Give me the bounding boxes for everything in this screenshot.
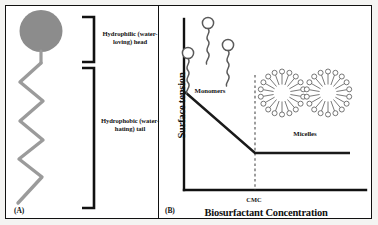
hydrophobic-tail-icon	[18, 63, 43, 203]
panel-a-tag: (A)	[14, 206, 24, 215]
surface-tension-curve	[185, 92, 350, 153]
micelles-caption: Micelles	[270, 130, 340, 137]
x-axis-title: Biosurfactant Concentration	[168, 207, 364, 218]
micelle-glyph-right	[304, 69, 351, 117]
micelle-glyph-left	[258, 69, 305, 117]
panel-b: Surface tension Biosurfactant Concentrat…	[160, 5, 372, 219]
panel-b-tag: (B)	[165, 206, 175, 215]
tail-bracket-icon	[82, 68, 94, 208]
figure-root: Hydrophilic (water-loving) head Hydropho…	[0, 0, 378, 225]
cmc-tick-label: CMC	[232, 196, 276, 203]
monomers-caption: Monomers	[178, 87, 242, 94]
hydrophilic-head-icon	[20, 10, 63, 52]
head-bracket-icon	[82, 17, 94, 62]
hydrophilic-head-label: Hydrophilic (water-loving) head	[97, 30, 163, 47]
panel-b-graphics	[160, 5, 372, 219]
monomer-glyph-group	[182, 17, 233, 94]
y-axis-title: Surface tension	[176, 41, 187, 171]
hydrophobic-tail-label: Hydrophobic (water-hating) tail	[97, 117, 163, 134]
panel-a: Hydrophilic (water-loving) head Hydropho…	[5, 5, 158, 219]
